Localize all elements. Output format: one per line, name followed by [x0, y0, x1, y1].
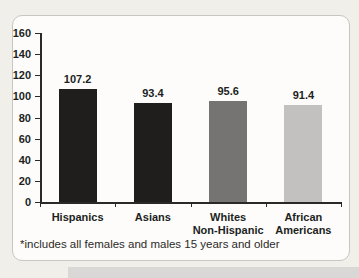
y-tick-label: 100: [7, 91, 31, 102]
category-label: Hispanics: [35, 211, 120, 224]
bar-asians: [134, 103, 172, 202]
y-tick-mark: [35, 75, 40, 76]
y-tick-label: 140: [7, 49, 31, 60]
y-tick-label: 20: [7, 176, 31, 187]
y-tick-label: 0: [7, 197, 31, 208]
bar-whites: [209, 101, 247, 202]
y-tick-label: 40: [7, 155, 31, 166]
x-tick-mark: [40, 202, 41, 207]
x-tick-mark: [191, 202, 192, 207]
y-axis-line: [40, 33, 42, 202]
bar-african: [284, 105, 322, 202]
y-tick-mark: [35, 139, 40, 140]
bar-hispanics: [59, 89, 97, 202]
x-tick-mark: [266, 202, 267, 207]
x-tick-mark: [341, 202, 342, 207]
y-tick-mark: [35, 118, 40, 119]
y-tick-label: 160: [7, 28, 31, 39]
bar-value-label: 93.4: [123, 88, 183, 99]
y-tick-mark: [35, 181, 40, 182]
bar-value-label: 91.4: [273, 90, 333, 101]
y-tick-mark: [35, 54, 40, 55]
chart-footnote: *includes all females and males 15 years…: [20, 238, 280, 250]
category-label: Whites Non-Hispanic: [186, 211, 271, 237]
bar-value-label: 107.2: [48, 74, 108, 85]
page-background: 020406080100120140160107.2Hispanics93.4A…: [0, 0, 359, 278]
bar-value-label: 95.6: [198, 86, 258, 97]
category-label: Asians: [110, 211, 195, 224]
next-section-edge: [68, 267, 359, 278]
y-tick-label: 80: [7, 113, 31, 124]
x-tick-mark: [115, 202, 116, 207]
category-label: African Americans: [261, 211, 346, 237]
y-tick-mark: [35, 96, 40, 97]
y-tick-label: 60: [7, 134, 31, 145]
y-tick-mark: [35, 160, 40, 161]
y-tick-mark: [35, 33, 40, 34]
y-tick-label: 120: [7, 70, 31, 81]
